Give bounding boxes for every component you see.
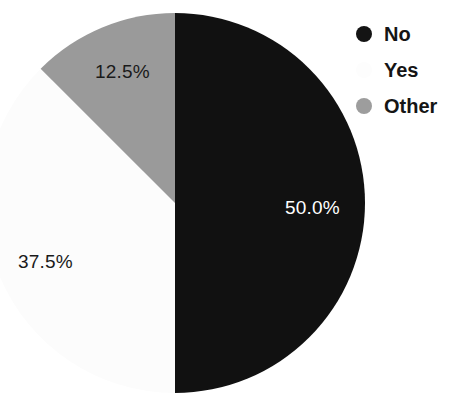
legend-label-other: Other xyxy=(384,96,437,116)
legend-item-other[interactable]: Other xyxy=(356,88,449,124)
legend-label-no: No xyxy=(384,24,411,44)
legend-item-yes[interactable]: Yes xyxy=(356,52,449,88)
legend-swatch-other-icon xyxy=(356,98,372,114)
pie-label-yes: 37.5% xyxy=(18,252,73,271)
legend-swatch-yes-icon xyxy=(356,62,372,78)
legend-label-yes: Yes xyxy=(384,60,418,80)
pie-chart: 50.0% 37.5% 12.5% No Yes Other xyxy=(0,0,449,405)
legend-swatch-no-icon xyxy=(356,26,372,42)
pie-label-no: 50.0% xyxy=(285,198,340,217)
chart-legend: No Yes Other xyxy=(356,16,449,124)
legend-item-no[interactable]: No xyxy=(356,16,449,52)
pie-label-other: 12.5% xyxy=(95,62,150,81)
